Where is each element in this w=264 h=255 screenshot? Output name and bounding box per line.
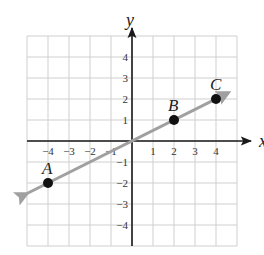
x-tick-label: 1 — [150, 145, 156, 157]
x-tick-label: 2 — [171, 145, 177, 157]
point-c — [211, 94, 221, 104]
x-tick-label: 4 — [213, 145, 219, 157]
point-a — [43, 178, 53, 188]
point-label-b: B — [168, 96, 179, 115]
x-tick-label: 3 — [192, 145, 198, 157]
y-tick-label: −2 — [116, 177, 128, 189]
point-label-c: C — [210, 75, 222, 94]
y-axis-label: y — [124, 10, 134, 30]
y-tick-label: 1 — [123, 114, 129, 126]
y-tick-label: 2 — [123, 93, 129, 105]
y-tick-label: 3 — [123, 72, 129, 84]
x-tick-label: −4 — [42, 145, 54, 157]
y-tick-label: −1 — [116, 156, 128, 168]
point-b — [169, 115, 179, 125]
y-tick-label: −3 — [116, 198, 128, 210]
y-tick-label: 4 — [123, 51, 129, 63]
x-tick-label: −2 — [84, 145, 96, 157]
y-tick-label: −4 — [116, 219, 128, 231]
point-label-a: A — [41, 159, 53, 178]
axes: xy — [27, 10, 264, 246]
coordinate-plane: xy −4−3−2−112344321−1−2−3−4 ABC — [0, 0, 264, 255]
x-tick-label: −3 — [63, 145, 75, 157]
x-axis-label: x — [258, 131, 264, 151]
